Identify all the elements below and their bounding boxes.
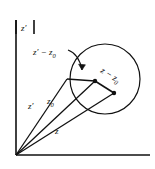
axis-top-label: z′ [20,23,28,33]
vector-z-prime-minus-z0-line [67,79,95,81]
label-z-minus-z0: z − z0 [97,65,122,87]
label-vector-z: z [54,126,59,136]
label-z-prime-minus-z0-sub: 0 [53,52,57,59]
vector-z-minus-z0-line [95,81,114,93]
label-vector-z-zero: z0 [46,96,55,108]
disk-circle [70,44,140,114]
label-vector-z-prime: z′ [27,101,35,111]
vector-z-zero-line [16,81,95,155]
figure-container: z′ z′ − z0 z − z0 z′ z0 z [0,0,155,169]
label-z-prime-minus-z0-main: z′ − z [32,47,53,57]
vector-diagram-svg: z′ z′ − z0 z − z0 z′ z0 z [0,0,155,169]
leader-arrowhead-icon [79,64,86,70]
point-z-dot [112,91,116,95]
point-z0-dot [93,79,97,83]
vector-z-prime-line [16,79,67,155]
label-z-prime-minus-z0: z′ − z0 [32,47,57,59]
label-vector-z-zero-sub: 0 [51,101,55,108]
